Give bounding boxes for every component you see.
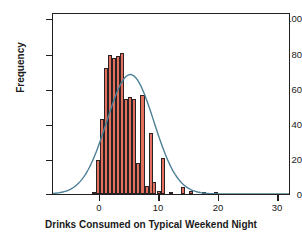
x-tickmark-10 [158,195,159,201]
x-tickmark-30 [277,195,278,201]
x-axis-label: Drinks Consumed on Typical Weekend Night [0,219,302,230]
x-tickmark-20 [218,195,219,201]
histogram-bar [169,192,173,194]
histogram-bar [140,95,144,194]
bars-layer [53,14,289,194]
histogram-bar [202,192,206,194]
x-tick-label-30: 30 [262,203,292,212]
x-tick-label-10: 10 [143,203,173,212]
x-tickmark-0 [99,195,100,201]
x-tick-label-20: 20 [203,203,233,212]
histogram-bar [181,187,185,194]
x-tick-label-0: 0 [84,203,114,212]
histogram-bar [161,158,165,194]
histogram-bar [189,191,193,194]
plot-area [52,13,290,195]
histogram-figure: Frequency 100 80 60 40 20 0 0 10 20 30 D… [0,0,302,236]
histogram-bar [214,192,218,194]
y-axis-label: Frequency [15,18,26,118]
